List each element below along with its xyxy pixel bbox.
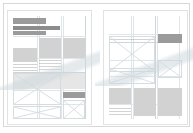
lower-photo-right [158,88,182,116]
column-3-photo [63,38,85,58]
image-placeholder-c [13,106,61,119]
x-cross-icon [64,101,84,118]
artboard-frame-right [189,3,190,127]
caption-bar [63,92,85,98]
subhead-bar [13,26,60,30]
image-placeholder-f [109,68,155,84]
wireframe-spread-canvas: Left page [0,0,193,133]
page-right-margin-box: Right page [109,16,182,119]
headline-bar [13,18,46,24]
column-2-photo [39,38,61,58]
page-left[interactable]: Left page [7,10,92,125]
page-left-margin-box: Left page [13,16,86,119]
pull-quote-tint [158,34,182,43]
lower-photo-left [109,88,131,104]
image-placeholder-b [63,100,85,119]
artboard-frame-top [3,3,190,4]
x-cross-icon [14,74,60,104]
artboard-frame-bottom [3,126,190,127]
body-copy-left [13,64,37,71]
column-1-photo [13,48,37,62]
lower-photo-center [134,88,156,116]
x-cross-icon [110,69,154,83]
body-copy-center [39,60,61,71]
x-cross-icon [159,61,181,77]
page-right[interactable]: Right page [103,10,188,125]
kicker-bar [13,31,46,35]
x-cross-icon [14,107,60,118]
artboard-frame-left [3,3,4,127]
guide-row-1 [13,36,86,37]
image-placeholder-d [109,36,155,72]
x-cross-icon [110,37,154,71]
footer-copy [109,108,131,116]
image-placeholder-e [158,60,182,78]
image-placeholder-a [13,73,61,105]
